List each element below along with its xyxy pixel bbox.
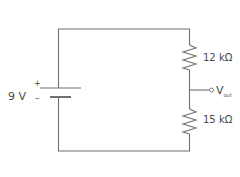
battery-plus-sign: + bbox=[34, 80, 41, 88]
circuit-schematic bbox=[0, 0, 240, 177]
resistor-2-symbol bbox=[183, 109, 196, 134]
resistor-2-label: 15 kΩ bbox=[203, 115, 232, 125]
wire-left-top bbox=[59, 29, 190, 88]
output-label-subscript: out bbox=[224, 92, 232, 98]
output-label-main: V bbox=[216, 84, 224, 97]
output-voltage-label: Vout bbox=[216, 85, 232, 98]
output-terminal bbox=[210, 88, 214, 92]
resistor-1-label: 12 kΩ bbox=[203, 53, 232, 63]
wire-bottom bbox=[59, 97, 190, 151]
battery-minus-sign: – bbox=[35, 94, 40, 103]
resistor-1-symbol bbox=[183, 45, 196, 70]
battery-voltage-label: 9 V bbox=[8, 91, 26, 102]
voltage-divider-diagram: 9 V + – 12 kΩ 15 kΩ Vout bbox=[0, 0, 240, 177]
